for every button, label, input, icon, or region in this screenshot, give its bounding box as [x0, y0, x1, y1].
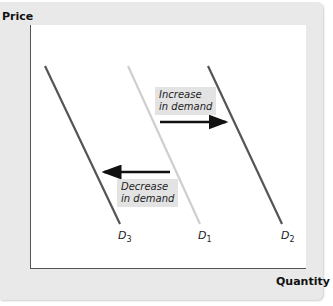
- decrease-demand-note: Decrease in demand: [117, 179, 178, 207]
- curve-d3: [45, 66, 120, 224]
- increase-demand-note: Increase in demand: [155, 87, 216, 115]
- label-d2: D2: [281, 229, 295, 244]
- label-d1: D1: [198, 229, 212, 244]
- label-d3: D3: [118, 229, 132, 244]
- curve-d2: [208, 66, 282, 224]
- demand-curves: [0, 0, 333, 306]
